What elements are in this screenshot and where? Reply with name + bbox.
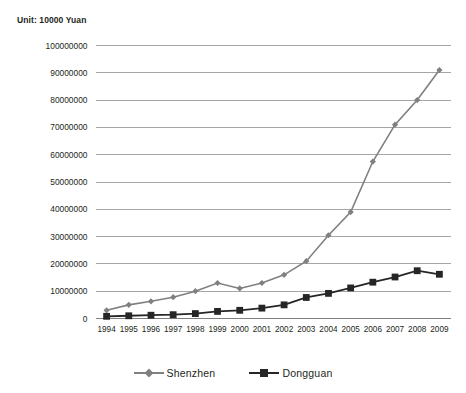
series-dongguan (103, 267, 443, 319)
x-tick-label: 1995 (120, 325, 139, 334)
data-point-marker (237, 285, 243, 291)
x-tick-label: 2000 (231, 325, 250, 334)
data-point-marker (414, 267, 421, 274)
y-tick-label: 70000000 (50, 122, 88, 132)
data-point-marker (281, 301, 288, 308)
y-tick-label: 10000000 (50, 286, 88, 296)
legend-label-dongguan: Dongguan (282, 367, 332, 379)
y-tick-label: 100000000 (46, 41, 88, 51)
y-tick-label: 0 (83, 314, 88, 324)
x-tick-label: 2004 (319, 325, 338, 334)
x-tick-label: 1996 (142, 325, 161, 334)
data-point-marker (148, 298, 154, 304)
y-tick-label: 90000000 (50, 68, 88, 78)
data-point-marker (259, 280, 265, 286)
data-point-marker (192, 310, 199, 317)
data-point-marker (214, 308, 221, 315)
y-tick-label: 30000000 (50, 232, 88, 242)
x-axis-tick-labels: 1994199519961997199819992000200120022003… (97, 325, 448, 334)
data-point-marker (392, 274, 399, 281)
square-marker-icon (249, 367, 279, 379)
data-point-marker (170, 311, 177, 318)
chart-legend: Shenzhen Dongguan (0, 352, 466, 393)
x-tick-label: 2001 (253, 325, 272, 334)
data-point-marker (125, 312, 132, 319)
data-point-marker (192, 288, 198, 294)
data-point-marker (214, 280, 220, 286)
y-tick-label: 80000000 (50, 95, 88, 105)
plot-area: 0100000002000000030000000400000005000000… (0, 0, 466, 350)
x-tick-label: 1994 (97, 325, 116, 334)
x-tick-label: 1999 (208, 325, 227, 334)
x-tick-label: 2007 (386, 325, 405, 334)
data-point-marker (126, 302, 132, 308)
data-series-group (103, 67, 443, 320)
line-chart-figure: Unit: 10000 Yuan 01000000020000000300000… (0, 0, 466, 393)
data-point-marker (347, 285, 354, 292)
data-point-marker (325, 290, 332, 297)
data-point-marker (103, 313, 110, 320)
data-point-marker (369, 279, 376, 286)
legend-item-shenzhen[interactable]: Shenzhen (134, 367, 216, 379)
y-axis-tick-labels: 0100000002000000030000000400000005000000… (46, 41, 88, 324)
data-point-marker (103, 307, 109, 313)
y-tick-label: 20000000 (50, 259, 88, 269)
data-point-marker (236, 307, 243, 314)
x-tick-label: 2005 (342, 325, 361, 334)
x-tick-label: 1997 (164, 325, 183, 334)
x-tick-label: 2009 (430, 325, 449, 334)
data-point-marker (303, 294, 310, 301)
data-point-marker (436, 271, 443, 278)
x-tick-label: 1998 (186, 325, 205, 334)
y-tick-label: 50000000 (50, 177, 88, 187)
x-tick-label: 2002 (275, 325, 294, 334)
x-tick-label: 2008 (408, 325, 427, 334)
data-point-marker (170, 294, 176, 300)
diamond-marker-icon (134, 367, 164, 379)
data-point-marker (148, 312, 155, 319)
y-tick-label: 60000000 (50, 150, 88, 160)
series-line (107, 271, 440, 317)
legend-label-shenzhen: Shenzhen (167, 367, 216, 379)
chart-svg: 0100000002000000030000000400000005000000… (0, 0, 466, 350)
y-tick-label: 40000000 (50, 204, 88, 214)
x-tick-label: 2006 (364, 325, 383, 334)
series-line (107, 70, 440, 310)
data-point-marker (259, 305, 266, 312)
x-tick-label: 2003 (297, 325, 316, 334)
legend-item-dongguan[interactable]: Dongguan (249, 367, 332, 379)
